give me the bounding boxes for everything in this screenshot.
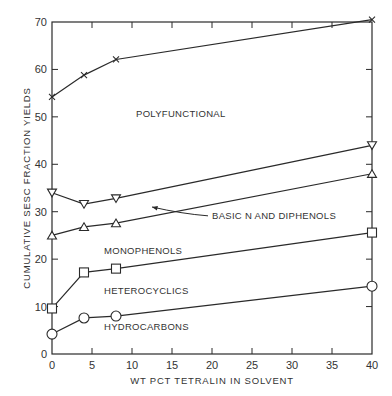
x-tick-label: 15	[166, 359, 178, 371]
series-monophenols	[48, 170, 377, 239]
y-tick-label: 70	[35, 16, 47, 28]
y-tick-label: 10	[35, 301, 47, 313]
x-tick-label: 25	[246, 359, 258, 371]
series-label: HETEROCYCLICS	[104, 285, 189, 296]
y-tick-label: 60	[35, 63, 47, 75]
y-tick-label: 40	[35, 158, 47, 170]
y-tick-label: 20	[35, 253, 47, 265]
series-hydrocarbons	[47, 281, 377, 339]
series-polyfunctional	[49, 17, 375, 100]
y-axis-label: CUMULATIVE SESC FRACTION YIELDS	[21, 87, 32, 288]
annotations: POLYFUNCTIONALBASIC N AND DIPHENOLSMONOP…	[104, 108, 336, 332]
data-series	[47, 17, 377, 339]
line-chart: 0510152025303540010203040506070 POLYFUNC…	[0, 0, 392, 396]
x-tick-label: 20	[206, 359, 218, 371]
series-label: HYDROCARBONS	[104, 321, 189, 332]
x-tick-label: 10	[126, 359, 138, 371]
x-tick-label: 5	[89, 359, 95, 371]
arrowhead-icon	[152, 206, 158, 211]
x-axis-label: WT PCT TETRALIN IN SOLVENT	[130, 375, 294, 386]
y-tick-label: 30	[35, 206, 47, 218]
x-tick-label: 35	[326, 359, 338, 371]
series-label: MONOPHENOLS	[104, 245, 182, 256]
series-label: POLYFUNCTIONAL	[136, 108, 226, 119]
x-tick-label: 0	[49, 359, 55, 371]
series-label: BASIC N AND DIPHENOLS	[212, 210, 336, 221]
plot-frame	[52, 22, 372, 354]
x-tick-label: 40	[366, 359, 378, 371]
plot-axes	[52, 22, 372, 354]
y-tick-label: 0	[41, 348, 47, 360]
series-basic-n-and-diphenols	[48, 142, 377, 208]
x-tick-label: 30	[286, 359, 298, 371]
y-tick-label: 50	[35, 111, 47, 123]
series-heterocyclics	[48, 228, 377, 313]
